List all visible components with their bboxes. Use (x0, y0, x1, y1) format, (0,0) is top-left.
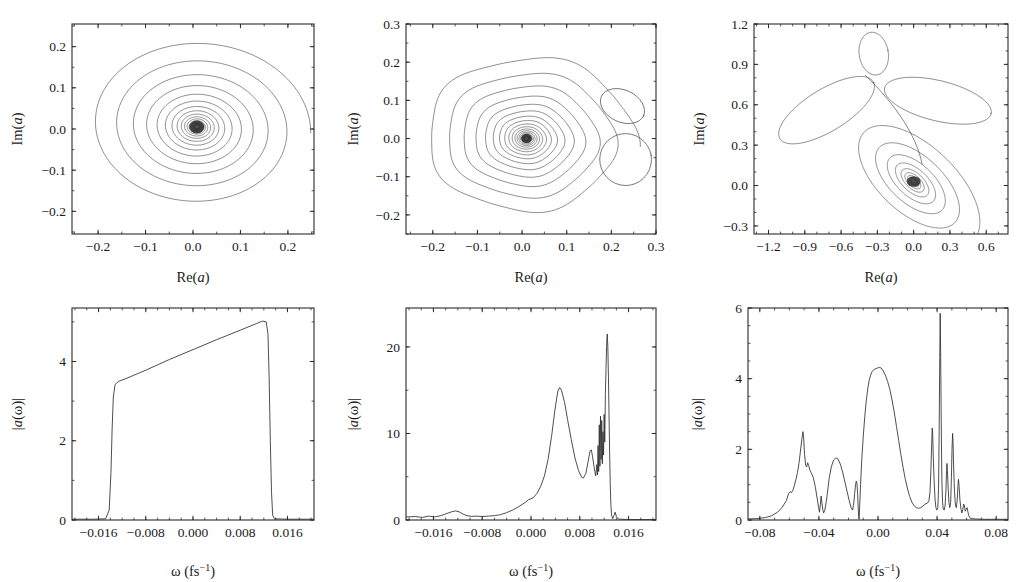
x-tick-label: −0.04 (803, 525, 834, 540)
x-axis-label: ω (fs−1) (856, 562, 900, 581)
x-tick-label: 0.3 (942, 239, 959, 254)
x-tick-label: 0.04 (925, 525, 949, 540)
x-tick-label: 0.08 (984, 525, 1008, 540)
y-tick-label: 4 (735, 371, 742, 386)
x-tick-label: −1.2 (756, 239, 781, 254)
x-tick-label: 0.0 (514, 239, 531, 254)
plot-area: −0.016−0.0080.0000.0080.01601020ω (fs−1)… (340, 288, 674, 580)
panel-phase-space-b: −0.2−0.10.00.10.20.3−0.2−0.10.00.10.20.3… (340, 2, 674, 286)
y-tick-label: 0.0 (731, 178, 748, 193)
y-axis-label: Im(a) (9, 112, 26, 145)
y-axis-label: Im(a) (691, 112, 708, 145)
x-tick-label: 0.1 (232, 239, 249, 254)
panel-spectrum-d: −0.016−0.0080.0000.0080.016024ω (fs−1)|a… (0, 288, 330, 580)
x-tick-label: 0.2 (603, 239, 620, 254)
panel-phase-space-a: −0.2−0.10.00.10.2−0.2−0.10.00.10.2Re(a)I… (0, 2, 330, 286)
x-tick-label: 0.000 (516, 525, 547, 540)
x-tick-label: −0.2 (421, 239, 446, 254)
y-tick-label: 6 (735, 301, 742, 316)
x-axis-label: Re(a) (864, 269, 897, 286)
x-tick-label: −0.2 (86, 239, 111, 254)
x-tick-label: −0.1 (465, 239, 490, 254)
y-tick-label: 0.1 (383, 93, 400, 108)
panel-phase-space-c: −1.2−0.9−0.6−0.30.00.30.6−0.30.00.30.60.… (682, 2, 1030, 286)
plot-frame (72, 308, 314, 520)
plot-area: −1.2−0.9−0.6−0.30.00.30.6−0.30.00.30.60.… (682, 2, 1030, 286)
y-tick-label: 0 (59, 513, 66, 528)
y-tick-label: −0.2 (376, 208, 401, 223)
x-tick-label: −0.6 (829, 239, 854, 254)
y-tick-label: 2 (735, 442, 742, 457)
y-tick-label: 0.0 (383, 131, 400, 146)
x-tick-label: −0.3 (865, 239, 890, 254)
x-tick-label: 0.008 (565, 525, 596, 540)
y-tick-label: 0.2 (383, 55, 400, 70)
x-axis-label: Re(a) (514, 269, 547, 286)
plot-frame (406, 24, 656, 234)
plot-frame (406, 308, 656, 520)
y-tick-label: −0.2 (42, 204, 67, 219)
y-axis-label: |a(ω)| (9, 398, 26, 430)
x-axis-label: ω (fs−1) (509, 562, 553, 581)
y-tick-label: 0.6 (731, 97, 748, 112)
x-tick-label: 0.2 (279, 239, 296, 254)
x-tick-label: −0.08 (744, 525, 775, 540)
y-tick-label: 1.2 (731, 17, 748, 32)
x-axis-label: ω (fs−1) (171, 562, 215, 581)
y-tick-label: 4 (59, 354, 66, 369)
y-tick-label: 20 (387, 340, 401, 355)
y-tick-label: 2 (59, 433, 66, 448)
y-tick-label: 0 (735, 513, 742, 528)
y-tick-label: 0.2 (49, 39, 66, 54)
panel-spectrum-e: −0.016−0.0080.0000.0080.01601020ω (fs−1)… (340, 288, 674, 580)
y-tick-label: 0.9 (731, 57, 748, 72)
x-tick-label: −0.1 (133, 239, 158, 254)
y-axis-label: |a(ω)| (689, 398, 706, 430)
x-axis-label: Re(a) (176, 269, 209, 286)
y-tick-label: −0.3 (724, 219, 749, 234)
x-tick-label: 0.000 (178, 525, 209, 540)
x-tick-label: 0.008 (225, 525, 256, 540)
x-tick-label: 0.00 (866, 525, 890, 540)
attractor-core (521, 134, 532, 143)
x-tick-label: 0.0 (905, 239, 922, 254)
x-tick-label: −0.008 (127, 525, 165, 540)
y-axis-label: |a(ω)| (345, 398, 362, 430)
x-tick-label: −0.016 (80, 525, 118, 540)
figure-canvas: −0.2−0.10.00.10.2−0.2−0.10.00.10.2Re(a)I… (0, 0, 1036, 582)
x-tick-label: −0.016 (414, 525, 452, 540)
x-tick-label: 0.0 (185, 239, 202, 254)
plot-area: −0.2−0.10.00.10.20.3−0.2−0.10.00.10.20.3… (340, 2, 674, 286)
y-tick-label: 10 (387, 426, 401, 441)
y-tick-label: 0.3 (383, 17, 400, 32)
x-tick-label: 0.016 (272, 525, 303, 540)
plot-frame (754, 24, 1008, 234)
y-axis-label: Im(a) (345, 112, 362, 145)
plot-frame (748, 308, 1008, 520)
plot-area: −0.2−0.10.00.10.2−0.2−0.10.00.10.2Re(a)I… (0, 2, 330, 286)
x-tick-label: 0.6 (978, 239, 995, 254)
y-tick-label: 0.3 (731, 138, 748, 153)
x-tick-label: 0.3 (648, 239, 665, 254)
y-tick-label: 0.0 (49, 122, 66, 137)
x-tick-label: 0.1 (558, 239, 575, 254)
y-tick-label: 0.1 (49, 80, 66, 95)
y-tick-label: 0 (393, 513, 400, 528)
attractor-core (907, 176, 921, 186)
attractor-core (189, 120, 204, 133)
y-tick-label: −0.1 (42, 163, 67, 178)
x-tick-label: 0.016 (613, 525, 644, 540)
plot-area: −0.08−0.040.000.040.080246ω (fs−1)|a(ω)| (682, 288, 1030, 580)
plot-area: −0.016−0.0080.0000.0080.016024ω (fs−1)|a… (0, 288, 330, 580)
x-tick-label: −0.9 (793, 239, 818, 254)
y-tick-label: −0.1 (376, 169, 401, 184)
x-tick-label: −0.008 (463, 525, 501, 540)
panel-spectrum-f: −0.08−0.040.000.040.080246ω (fs−1)|a(ω)| (682, 288, 1030, 580)
